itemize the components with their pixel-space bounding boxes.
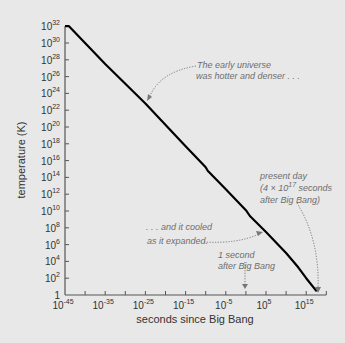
arrow-cooled — [204, 234, 259, 242]
annotation-present-day-line1: present day — [259, 171, 308, 181]
arrowhead-cooled — [256, 231, 263, 236]
y-tick-label: 1018 — [41, 137, 60, 150]
x-tick-label: 10-5 — [215, 298, 232, 311]
chart-svg: 1102104106108101010121014101610181020102… — [0, 0, 345, 343]
y-tick-label: 1030 — [41, 36, 60, 49]
y-tick-label: 1016 — [41, 154, 60, 167]
annotation-cooled-line2: as it expanded. — [147, 236, 208, 246]
x-tick-label: 10-45 — [52, 298, 73, 311]
annotation-early-universe-line2: was hotter and denser . . . — [196, 71, 300, 81]
y-tick-label: 1028 — [41, 53, 60, 66]
annotation-one-second-line1: 1 second — [218, 250, 256, 260]
y-axis-label: temperature (K) — [15, 121, 27, 198]
y-tick-label: 1020 — [41, 120, 60, 133]
arrowhead-early — [147, 94, 152, 101]
y-tick-label: 106 — [45, 238, 60, 251]
y-tick-label: 104 — [45, 254, 60, 267]
temperature-curve — [65, 26, 317, 291]
arrowhead-second — [242, 284, 248, 289]
annotation-early-universe-line1: The early universe — [197, 60, 271, 70]
y-tick-label: 1024 — [41, 86, 60, 99]
arrow-present-day — [297, 203, 318, 290]
x-tick-label: 10-15 — [173, 298, 194, 311]
annotation-present-day-line3: after Big Bang) — [260, 195, 320, 205]
x-tick-label: 105 — [256, 298, 271, 311]
y-tick-label: 1010 — [41, 204, 60, 217]
annotation-present-day-line2: (4 × 1017 seconds — [260, 181, 333, 193]
x-tick-label: 1015 — [295, 298, 314, 311]
y-tick-label: 1014 — [41, 170, 60, 183]
y-tick-label: 102 — [45, 271, 60, 284]
x-tick-label: 10-25 — [133, 298, 154, 311]
y-tick-label: 1022 — [41, 103, 60, 116]
arrow-early-universe — [150, 66, 196, 96]
annotation-cooled-line1: . . . and it cooled — [146, 222, 213, 232]
x-axis-ticks: 10-4510-3510-2510-1510-51051015 — [52, 291, 326, 311]
chart: 1102104106108101010121014101610181020102… — [0, 0, 345, 343]
x-axis-label: seconds since Big Bang — [136, 313, 253, 325]
y-tick-label: 1026 — [41, 70, 60, 83]
y-tick-label: 1012 — [41, 187, 60, 200]
x-tick-label: 10-35 — [93, 298, 114, 311]
y-tick-label: 108 — [45, 221, 60, 234]
annotation-one-second-line2: after Big Bang — [218, 261, 275, 271]
y-tick-label: 1032 — [41, 19, 60, 32]
